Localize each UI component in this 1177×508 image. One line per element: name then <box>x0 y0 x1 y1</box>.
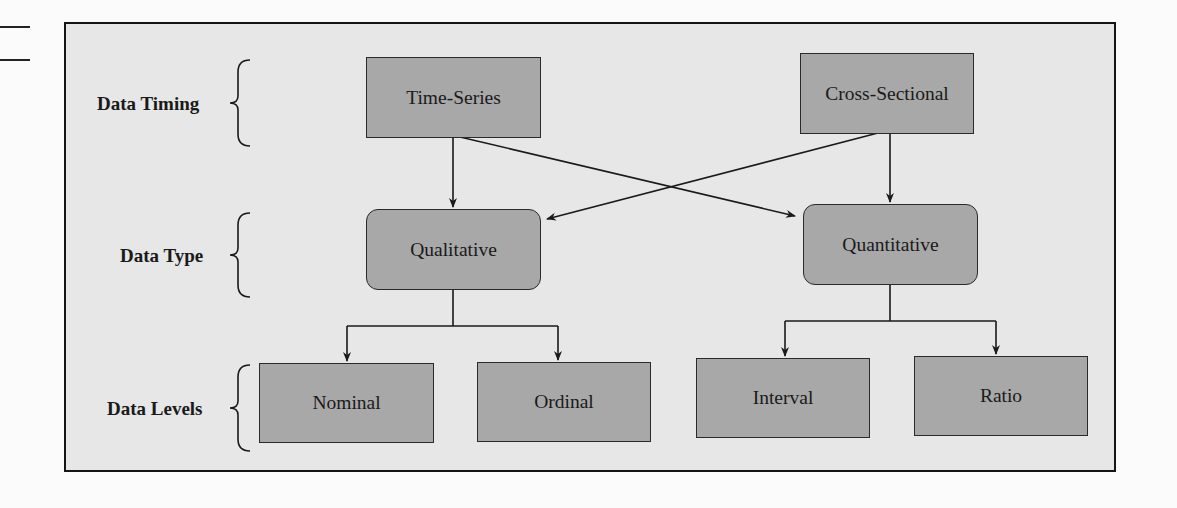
node-cross-sectional: Cross-Sectional <box>800 53 974 134</box>
top-rule-2 <box>0 59 30 61</box>
node-ratio: Ratio <box>914 356 1088 436</box>
node-ordinal: Ordinal <box>477 362 651 442</box>
row-label-data-timing: Data Timing <box>97 93 199 115</box>
row-label-data-type: Data Type <box>120 245 203 267</box>
row-label-data-levels: Data Levels <box>107 398 203 420</box>
node-qualitative: Qualitative <box>366 209 541 290</box>
node-quantitative: Quantitative <box>803 204 978 285</box>
top-rule-1 <box>0 26 30 28</box>
node-nominal: Nominal <box>259 363 434 443</box>
node-time-series: Time-Series <box>366 57 541 138</box>
node-interval: Interval <box>696 358 870 438</box>
